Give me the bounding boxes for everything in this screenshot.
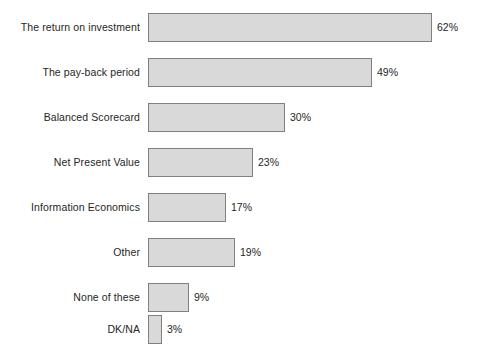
value-label: 49% [372,58,398,87]
value-label: 3% [162,315,182,344]
bar-segment [148,238,235,267]
category-label: None of these [73,283,148,312]
table-row: Other 19% [0,238,486,267]
category-label: The return on investment [21,13,148,42]
category-label: Other [113,238,148,267]
category-label: The pay-back period [42,58,148,87]
bar-segment [148,283,189,312]
value-label: 17% [226,193,252,222]
category-label: DK/NA [107,315,148,344]
bar-segment [148,58,372,87]
value-label: 9% [189,283,209,312]
bar-segment [148,13,432,42]
value-label: 30% [285,103,311,132]
plot-area: The return on investment 62% The pay-bac… [0,0,486,360]
table-row: Net Present Value 23% [0,148,486,177]
value-label: 23% [253,148,279,177]
table-row: DK/NA 3% [0,315,486,344]
table-row: The return on investment 62% [0,13,486,42]
bar-segment [148,315,162,344]
category-label: Balanced Scorecard [44,103,148,132]
category-label: Information Economics [31,193,148,222]
table-row: None of these 9% [0,283,486,312]
bar-chart: The return on investment 62% The pay-bac… [0,0,486,360]
table-row: Information Economics 17% [0,193,486,222]
bar-segment [148,193,226,222]
category-label: Net Present Value [54,148,148,177]
bar-segment [148,103,285,132]
table-row: The pay-back period 49% [0,58,486,87]
table-row: Balanced Scorecard 30% [0,103,486,132]
bar-segment [148,148,253,177]
value-label: 62% [432,13,458,42]
value-label: 19% [235,238,261,267]
